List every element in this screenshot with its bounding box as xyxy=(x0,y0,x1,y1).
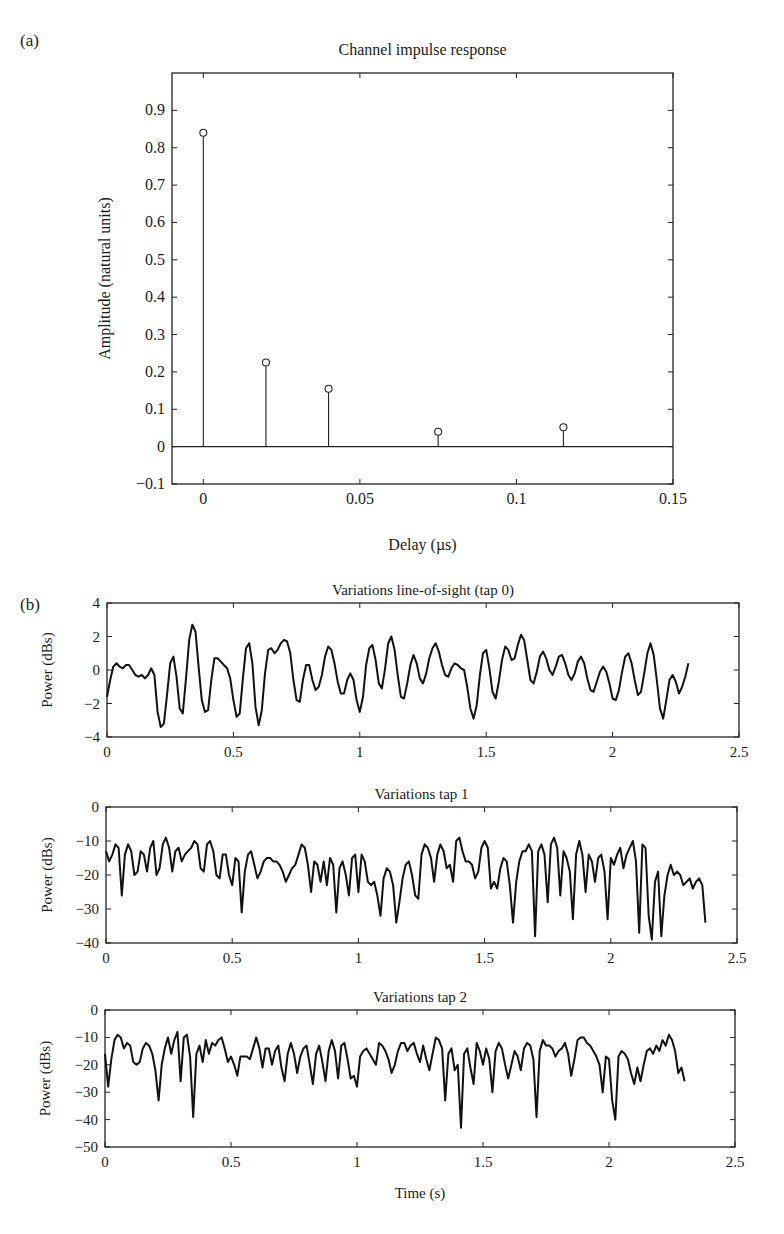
y-tick-label: −30 xyxy=(76,901,99,917)
chart-title: Variations tap 2 xyxy=(373,989,467,1005)
y-axis-label: Power (dBs) xyxy=(39,837,56,912)
power-series-line xyxy=(107,625,688,727)
y-tick-label: −40 xyxy=(76,935,99,951)
y-tick-label: 0 xyxy=(93,662,101,678)
impulse-response-chart: Channel impulse response00.050.10.15−0.1… xyxy=(96,41,687,554)
y-tick-label: −4 xyxy=(84,729,100,745)
x-axis-label: Delay (µs) xyxy=(388,536,456,554)
x-tick-label: 0.1 xyxy=(506,490,526,507)
stem-marker xyxy=(262,359,269,366)
y-tick-label: 0 xyxy=(92,799,100,815)
y-tick-label: −20 xyxy=(76,867,99,883)
stem-marker xyxy=(200,129,207,136)
x-tick-label: 2.5 xyxy=(728,950,747,966)
y-tick-label: 2 xyxy=(93,629,101,645)
y-tick-label: 0.4 xyxy=(145,288,165,305)
y-tick-label: −50 xyxy=(75,1139,98,1155)
x-tick-label: 2.5 xyxy=(730,744,749,760)
x-tick-label: 1 xyxy=(356,744,364,760)
y-tick-label: 0.1 xyxy=(145,400,165,417)
x-tick-label: 0.5 xyxy=(224,744,243,760)
y-tick-label: 0.6 xyxy=(145,213,165,230)
chart-title: Variations tap 1 xyxy=(374,786,468,802)
stem-marker xyxy=(325,385,332,392)
x-tick-label: 0.5 xyxy=(222,1154,241,1170)
x-tick-label: 2.5 xyxy=(726,1154,745,1170)
tap2-variation-chart: Variations tap 200.511.522.5−50−40−30−20… xyxy=(37,989,744,1202)
tap0-variation-chart: Variations line-of-sight (tap 0)00.511.5… xyxy=(39,582,748,760)
x-tick-label: 0 xyxy=(102,950,110,966)
y-tick-label: −0.1 xyxy=(136,475,165,492)
y-axis-label: Power (dBs) xyxy=(37,1041,54,1116)
figure: (a) (b) Channel impulse response00.050.1… xyxy=(0,0,784,1234)
y-tick-label: 0 xyxy=(157,438,165,455)
y-tick-label: −2 xyxy=(84,696,100,712)
chart-title: Variations line-of-sight (tap 0) xyxy=(332,582,514,599)
x-tick-label: 1.5 xyxy=(477,744,496,760)
y-tick-label: −30 xyxy=(75,1084,98,1100)
x-tick-label: 0.15 xyxy=(659,490,687,507)
x-tick-label: 1.5 xyxy=(475,950,494,966)
y-tick-label: 0.9 xyxy=(145,101,165,118)
x-tick-label: 0 xyxy=(101,1154,109,1170)
plot-frame xyxy=(172,73,673,484)
x-tick-label: 0.05 xyxy=(346,490,374,507)
plot-frame xyxy=(106,807,737,943)
y-tick-label: 0.2 xyxy=(145,363,165,380)
y-axis-label: Amplitude (natural units) xyxy=(96,197,114,360)
x-tick-label: 1 xyxy=(355,950,363,966)
x-tick-label: 2 xyxy=(605,1154,613,1170)
panel-a-label: (a) xyxy=(20,31,39,50)
y-tick-label: −40 xyxy=(75,1112,98,1128)
y-tick-label: −10 xyxy=(76,833,99,849)
x-axis-label: Time (s) xyxy=(395,1185,446,1202)
y-tick-label: 0.3 xyxy=(145,326,165,343)
x-tick-label: 0 xyxy=(199,490,207,507)
stem-marker xyxy=(560,424,567,431)
power-series-line xyxy=(105,1032,685,1128)
panel-b-label: (b) xyxy=(20,595,40,614)
x-tick-label: 2 xyxy=(609,744,617,760)
y-tick-label: 0.7 xyxy=(145,176,165,193)
chart-title: Channel impulse response xyxy=(339,41,507,59)
y-tick-label: −20 xyxy=(75,1057,98,1073)
y-tick-label: 0.5 xyxy=(145,251,165,268)
x-tick-label: 1.5 xyxy=(474,1154,493,1170)
x-tick-label: 2 xyxy=(607,950,615,966)
power-series-line xyxy=(106,838,705,940)
y-axis-label: Power (dBs) xyxy=(39,632,56,707)
y-tick-label: −10 xyxy=(75,1029,98,1045)
y-tick-label: 4 xyxy=(93,595,101,611)
x-tick-label: 1 xyxy=(353,1154,361,1170)
x-tick-label: 0.5 xyxy=(223,950,242,966)
tap1-variation-chart: Variations tap 100.511.522.5−40−30−20−10… xyxy=(39,786,746,966)
x-tick-label: 0 xyxy=(103,744,111,760)
stem-marker xyxy=(435,428,442,435)
y-tick-label: 0.8 xyxy=(145,139,165,156)
y-tick-label: 0 xyxy=(91,1002,99,1018)
